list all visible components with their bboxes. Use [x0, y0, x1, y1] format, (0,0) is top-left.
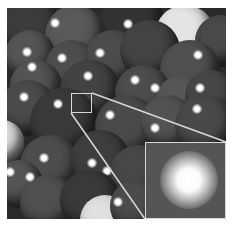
specular-highlight	[50, 18, 60, 28]
zoom-region-box	[71, 93, 92, 113]
specular-highlight	[95, 48, 105, 58]
specular-highlight	[27, 62, 37, 72]
specular-highlight	[39, 153, 49, 163]
specular-highlight	[19, 92, 29, 102]
specular-highlight	[123, 19, 133, 29]
specular-highlight	[195, 83, 205, 93]
specular-highlight	[192, 104, 202, 114]
specular-highlight	[53, 99, 63, 109]
specular-highlight	[150, 83, 160, 93]
magnified-inset	[145, 142, 226, 219]
specular-highlight	[57, 53, 67, 63]
specular-highlight	[22, 47, 32, 57]
specular-highlight	[87, 158, 97, 168]
specular-highlight	[83, 71, 93, 81]
specular-highlight	[105, 110, 115, 120]
specular-highlight	[193, 50, 203, 60]
specular-highlight	[150, 123, 160, 133]
specular-highlight	[113, 197, 123, 207]
specular-highlight	[25, 172, 35, 182]
specular-highlight-magnified	[160, 151, 218, 209]
specular-highlight	[130, 75, 140, 85]
